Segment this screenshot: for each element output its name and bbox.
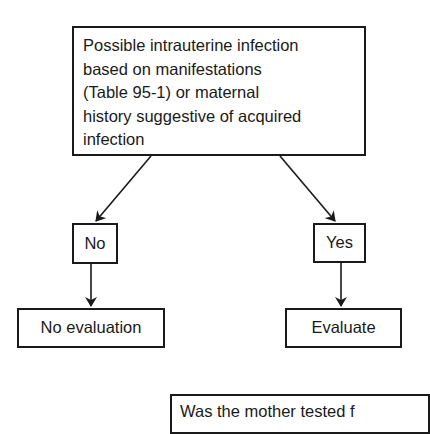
evaluate-box: Evaluate [285,308,402,348]
no-evaluation-label: No evaluation [41,316,142,340]
yes-branch-box: Yes [313,223,366,263]
yes-label: Yes [326,231,353,255]
next-question-box: Was the mother tested f [170,394,430,434]
evaluate-label: Evaluate [311,316,375,340]
no-label: No [84,232,105,256]
arrow-root-to-yes [280,156,335,221]
next-question-label: Was the mother tested f [180,402,355,420]
no-branch-box: No [72,223,118,264]
no-evaluation-box: No evaluation [17,308,165,348]
root-decision-box: Possible intrauterine infection based on… [72,26,366,156]
arrow-root-to-no [96,156,151,221]
